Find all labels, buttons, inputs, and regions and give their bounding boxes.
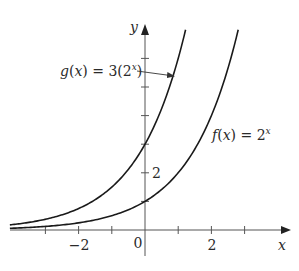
g-label-arrow-icon bbox=[137, 71, 174, 76]
curve-f bbox=[10, 30, 238, 229]
y-axis-arrow-icon bbox=[141, 24, 149, 35]
f-label-exponent: x bbox=[266, 126, 271, 136]
f-label-rest: ) = 2 bbox=[231, 127, 266, 143]
y-axis-label: y bbox=[129, 19, 139, 35]
x-tick-label-pos2: 2 bbox=[208, 237, 217, 253]
x-tick-label-neg2: −2 bbox=[69, 237, 90, 253]
g-label: g(x) = 3(2x) bbox=[60, 62, 142, 79]
f-label: f(x) = 2x bbox=[211, 126, 271, 143]
y-tick-label-2: 2 bbox=[152, 165, 161, 181]
exponential-chart: −2 0 2 2 x y g(x) = 3(2x) f(x) = 2x bbox=[0, 0, 299, 271]
x-axis-label: x bbox=[278, 237, 286, 253]
x-tick-label-zero: 0 bbox=[134, 235, 143, 251]
curve-g bbox=[10, 30, 186, 225]
g-label-rest: ) = 3(2 bbox=[82, 63, 131, 79]
g-label-name: g bbox=[60, 63, 69, 79]
f-label-var: x bbox=[223, 127, 231, 143]
g-label-var: x bbox=[74, 63, 82, 79]
x-axis-arrow-icon bbox=[281, 226, 291, 234]
